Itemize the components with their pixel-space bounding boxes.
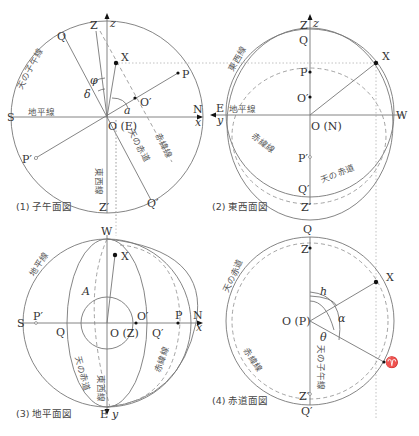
label-O-prime: O′ [137, 310, 149, 323]
label-Z: Z [300, 19, 308, 32]
label-A: A [81, 285, 90, 298]
label-S: S [7, 111, 15, 124]
label-P: P [300, 66, 308, 79]
label-aries: ♈ [385, 356, 399, 369]
label-a: a [124, 104, 131, 117]
label-O-P: O (P) [282, 315, 311, 328]
caption-panel-1: (1) 子午面図 [16, 201, 72, 212]
label-X: X [121, 51, 129, 64]
label-y-axis: y [111, 408, 119, 421]
label-Q-prime: Q′ [298, 183, 310, 196]
label-X: X [382, 50, 390, 63]
label-P-prime: P′ [298, 152, 308, 165]
label-Q: Q [303, 223, 312, 236]
label-east-west-line: 東西線 [96, 375, 106, 402]
label-x-axis: x [195, 116, 202, 129]
label-P-prime: P′ [33, 310, 43, 323]
label-declination-line: 赤緯線 [250, 131, 277, 156]
label-Z-prime: Z′ [99, 201, 110, 214]
label-Q-prime: Q′ [301, 405, 313, 418]
label-Q-prime: Q′ [152, 327, 164, 340]
label-theta: θ [320, 331, 327, 344]
panel-east-west-plane: Z z Q X P O′ E y W O (N) P′ Q′ Z′ 地平線 東西… [210, 14, 408, 220]
label-equator: 天の赤道 [73, 355, 92, 392]
label-Z-prime: Z′ [299, 390, 310, 403]
label-declination-line: 赤緯線 [152, 345, 171, 374]
label-Z-prime: Z′ [301, 201, 312, 214]
label-y-axis: y [216, 114, 224, 127]
label-P: P [175, 309, 183, 322]
label-X: X [121, 250, 129, 263]
label-W: W [101, 225, 113, 238]
label-X: X [386, 271, 394, 284]
label-O-prime: O′ [140, 96, 152, 109]
label-x-axis: x [196, 321, 203, 334]
label-P: P [182, 68, 190, 81]
label-Q-prime: Q′ [147, 197, 159, 210]
label-z-axis: z [312, 17, 319, 30]
label-O-Z: O (Z) [110, 327, 139, 340]
caption-panel-3: (3) 地平面図 [16, 408, 72, 419]
label-W: W [396, 109, 408, 122]
label-horizon: 地平線 [28, 107, 55, 117]
label-E: E [100, 408, 108, 421]
label-Z: Z [301, 243, 309, 256]
panel-meridian-plane: Z z Q X P φ δ O′ a S N x O (E) P′ Q′ Z′ … [7, 13, 203, 220]
celestial-projection-diagram: Z z Q X P φ δ O′ a S N x O (E) P′ Q′ Z′ … [0, 0, 419, 436]
label-east-west-line: 東西線 [94, 168, 104, 195]
label-declination-line: 赤緯線 [153, 131, 175, 160]
caption-panel-2: (2) 東西面図 [212, 201, 268, 212]
label-S: S [17, 317, 25, 330]
label-horizon: 地平線 [229, 104, 256, 114]
panel-equator-plane: Q Z X h α O (P) θ ♈ Z′ Q′ 天の赤道 赤緯線 天の子午線… [212, 223, 399, 418]
label-phi: φ [90, 74, 98, 87]
label-Z: Z [90, 19, 98, 32]
label-equator: 天の赤道 [126, 127, 152, 163]
label-N: N [193, 103, 203, 116]
label-meridian: 天の子午線 [15, 47, 45, 91]
label-z-axis: z [109, 17, 116, 30]
label-Q: Q [56, 326, 65, 339]
label-delta: δ [84, 88, 91, 101]
label-Q: Q [57, 30, 66, 43]
label-equator: 天の赤道 [319, 162, 356, 185]
label-Q: Q [299, 34, 308, 47]
label-declination-line: 赤緯線 [241, 346, 264, 374]
label-P-prime: P′ [22, 153, 32, 166]
panel-horizon-plane: W X A S P′ Q O (Z) O′ Q′ P N x E y 地平線 天… [16, 225, 203, 421]
label-meridian: 天の子午線 [316, 345, 326, 390]
label-O-prime: O′ [297, 92, 309, 105]
label-alpha: α [338, 312, 346, 325]
caption-panel-4: (4) 赤道面図 [212, 395, 268, 406]
label-h: h [320, 285, 327, 298]
label-east-west-line: 東西線 [226, 45, 248, 73]
label-O-N: O (N) [311, 120, 342, 133]
